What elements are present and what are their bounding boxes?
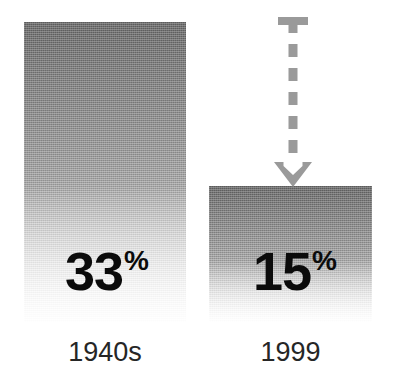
bar-1940s-value-number: 33 bbox=[65, 241, 123, 301]
bar-1999-value-label: 15% bbox=[253, 244, 336, 298]
arrow-head bbox=[274, 162, 312, 187]
bar-1940s-value-suffix: % bbox=[124, 245, 149, 276]
category-label-1940s: 1940s bbox=[24, 339, 186, 366]
bar-1999-value-suffix: % bbox=[312, 245, 337, 276]
dashed-down-arrow-icon bbox=[265, 14, 321, 190]
bar-1940s-value-label: 33% bbox=[65, 244, 148, 298]
bar-1999-value-number: 15 bbox=[253, 241, 311, 301]
category-label-1999: 1999 bbox=[209, 339, 372, 366]
bar-chart-figure: 33% 1940s 15% 1999 bbox=[0, 0, 393, 380]
